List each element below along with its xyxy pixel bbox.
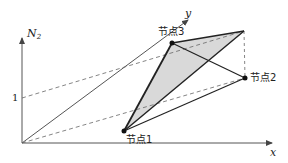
node1-label: 节点1 bbox=[126, 135, 152, 145]
node2-label: 节点2 bbox=[250, 73, 276, 83]
dashed-line-vertical bbox=[244, 31, 245, 78]
n2-label-main: N bbox=[27, 27, 37, 40]
node3-point bbox=[170, 41, 175, 46]
n2-axis-label: N2 bbox=[27, 28, 41, 41]
tick-label-1: 1 bbox=[12, 93, 18, 103]
n2-label-subscript: 2 bbox=[37, 33, 41, 41]
node3-label: 节点3 bbox=[158, 27, 184, 37]
node1-point bbox=[122, 129, 127, 134]
x-axis-label: x bbox=[270, 147, 276, 158]
y-axis-label: y bbox=[185, 8, 191, 19]
node2-point bbox=[243, 76, 248, 81]
